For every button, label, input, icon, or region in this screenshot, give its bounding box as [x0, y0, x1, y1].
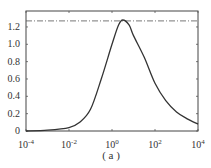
- x-tick-label: 104: [183, 137, 211, 150]
- y-tick-label: 0.2: [0, 109, 20, 119]
- data-curve: [26, 20, 198, 131]
- y-tick-label: 1.2: [0, 22, 20, 32]
- y-tick-label: 0: [0, 126, 20, 136]
- axes-frame: [26, 11, 198, 131]
- x-tick-label: 102: [140, 137, 170, 150]
- x-tick-label: 10-2: [54, 137, 84, 150]
- y-tick-label: 0.6: [0, 74, 20, 84]
- axis-ticks: [26, 11, 198, 131]
- y-tick-label: 1.0: [0, 39, 20, 49]
- y-tick-label: 0.4: [0, 91, 20, 101]
- y-tick-label: 0.8: [0, 57, 20, 67]
- chart-figure: 0 0.2 0.4 0.6 0.8 1.0 1.2 10-4 10-2 100 …: [0, 0, 211, 168]
- figure-caption: ( a ): [96, 149, 126, 161]
- x-tick-label: 10-4: [11, 137, 41, 150]
